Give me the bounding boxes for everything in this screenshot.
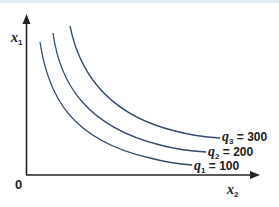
x-axis-label: x2 — [227, 182, 238, 199]
y-axis-label: x1 — [11, 30, 22, 47]
x-axis-arrow-icon — [250, 171, 260, 179]
isoquant-q3 — [70, 26, 220, 138]
y-axis-arrow-icon — [23, 14, 31, 24]
origin-label: 0 — [15, 177, 22, 192]
isoquant-q2 — [53, 33, 206, 152]
label-q1: q1 = 100 — [194, 158, 239, 175]
isoquant-chart — [0, 0, 279, 207]
